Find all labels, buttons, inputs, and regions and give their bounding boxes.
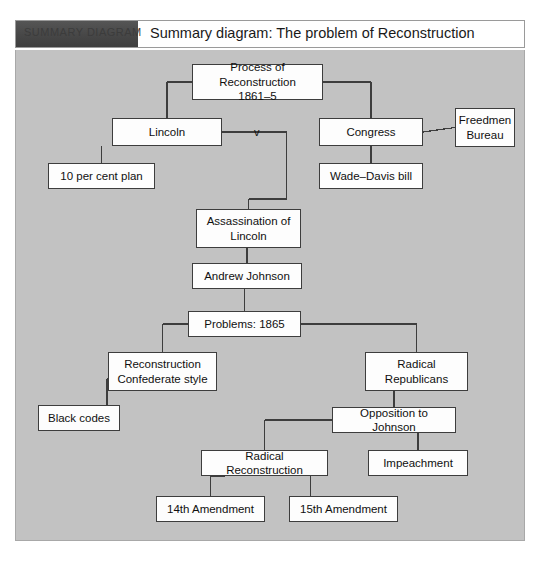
diagram-panel: Process of Reconstruction 1861–5LincolnC… [15,50,525,541]
node-lincoln: Lincoln [112,118,222,146]
node-confederate: Reconstruction Confederate style [108,352,217,391]
node-tenpercent: 10 per cent plan [48,163,155,189]
node-wadedavis: Wade–Davis bill [319,163,423,189]
page-title: Summary diagram: The problem of Reconstr… [150,25,475,41]
summary-diagram-tab: SUMMARY DIAGRAM [16,21,138,47]
node-amend15: 15th Amendment [289,496,398,522]
node-amend14: 14th Amendment [156,496,265,522]
node-process: Process of Reconstruction 1861–5 [192,64,323,100]
node-congress: Congress [319,118,423,146]
node-johnson: Andrew Johnson [192,263,302,289]
node-blackcodes: Black codes [38,405,120,431]
node-radicalrecon: Radical Reconstruction [201,450,328,476]
edge-congress-to-freedmen [423,128,455,133]
summary-diagram-tab-label: SUMMARY DIAGRAM [24,26,142,38]
node-assassination: Assassination of Lincoln [196,209,301,248]
node-problems: Problems: 1865 [188,311,301,337]
node-freedmen: Freedmen Bureau [455,108,515,147]
summary-diagram-title-bar: SUMMARY DIAGRAM Summary diagram: The pro… [15,20,525,48]
versus-label: v [254,126,260,138]
node-radicalrep: Radical Republicans [365,352,468,391]
diagram-canvas: Process of Reconstruction 1861–5LincolnC… [16,50,525,541]
node-opposition: Opposition to Johnson [332,407,456,433]
diagram-page: SUMMARY DIAGRAM Summary diagram: The pro… [0,0,550,566]
node-impeachment: Impeachment [368,450,468,476]
